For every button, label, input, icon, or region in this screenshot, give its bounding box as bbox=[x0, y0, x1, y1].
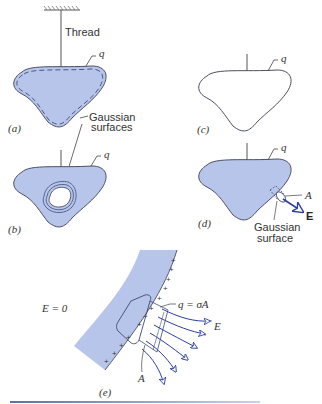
gauss-law-conductor-diagram: Thread q Gaussian surfaces (a) q (b) q (… bbox=[0, 0, 322, 404]
svg-text:+: + bbox=[112, 349, 117, 358]
gaussian-surfaces-label-2: surfaces bbox=[91, 121, 133, 133]
charge-leader-e bbox=[160, 304, 176, 307]
svg-text:+: + bbox=[104, 357, 109, 366]
panel-a: Thread q Gaussian surfaces (a) bbox=[8, 6, 135, 183]
field-lines-e bbox=[142, 309, 210, 384]
field-line-tails bbox=[205, 321, 212, 336]
conductor-c bbox=[199, 70, 291, 131]
charge-leader-d bbox=[268, 149, 278, 160]
svg-text:+: + bbox=[149, 304, 154, 313]
panel-d: E A q Gaussian surface (d) bbox=[198, 141, 313, 244]
charge-label-d: q bbox=[281, 141, 287, 153]
svg-text:+: + bbox=[171, 256, 176, 265]
panel-c: q (c) bbox=[197, 52, 291, 136]
field-label-e: E bbox=[213, 320, 221, 332]
gaussian-surface-label-2: surface bbox=[257, 232, 293, 244]
svg-text:+: + bbox=[163, 284, 168, 293]
charge-label-a: q bbox=[99, 47, 105, 59]
field-arrow-d bbox=[283, 199, 303, 212]
charge-leader-c bbox=[268, 60, 278, 71]
figure-bottom-rule bbox=[10, 401, 260, 403]
panel-c-label: (c) bbox=[197, 123, 210, 136]
svg-text:+: + bbox=[137, 320, 142, 329]
thread-label: Thread bbox=[65, 26, 100, 38]
charge-leader-a bbox=[86, 56, 96, 66]
panel-e-label: (e) bbox=[99, 386, 112, 399]
charge-equation-label: q = σA bbox=[178, 298, 209, 310]
field-label-d: E bbox=[306, 210, 313, 222]
svg-text:+: + bbox=[166, 275, 171, 284]
gaussian-leader-a bbox=[80, 116, 88, 118]
svg-text:+: + bbox=[169, 265, 174, 274]
svg-text:+: + bbox=[119, 341, 124, 350]
area-label-e: A bbox=[137, 372, 145, 384]
panel-d-label: (d) bbox=[198, 217, 211, 230]
area-label-d: A bbox=[304, 189, 312, 201]
panel-a-label: (a) bbox=[8, 122, 21, 135]
panel-b: q (b) bbox=[8, 148, 110, 236]
inside-field-text: E = 0 bbox=[41, 302, 68, 314]
ceiling-support-icon bbox=[44, 6, 80, 10]
charge-label-c: q bbox=[281, 52, 287, 64]
gaussian-leader-d bbox=[274, 201, 277, 220]
charge-leader-b bbox=[91, 156, 101, 166]
svg-text:+: + bbox=[157, 294, 162, 303]
panel-e: + + + + + + + + + + + + bbox=[41, 250, 221, 399]
area-leader-d bbox=[285, 195, 302, 196]
charge-label-b: q bbox=[104, 148, 110, 160]
conductor-d bbox=[199, 159, 291, 220]
panel-b-label: (b) bbox=[8, 223, 21, 236]
